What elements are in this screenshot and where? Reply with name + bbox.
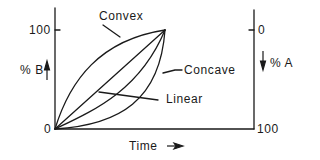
convex-leader <box>103 25 120 37</box>
linear-label: Linear <box>166 93 203 105</box>
convex-label: Convex <box>99 10 143 22</box>
concave-label: Concave <box>184 64 236 76</box>
right-axis-100-label: 100 <box>257 123 279 135</box>
left-axis-0-label: 0 <box>44 123 51 135</box>
concave-leader <box>163 70 182 73</box>
up-arrow-icon <box>45 61 50 70</box>
percent-a-label: % A <box>270 57 293 69</box>
right-axis-0-label: 0 <box>258 24 265 36</box>
linear-leader <box>99 92 158 100</box>
linear-curve <box>55 30 165 129</box>
time-label: Time <box>129 140 158 152</box>
percent-b-label: % B <box>20 64 44 76</box>
left-axis-100-label: 100 <box>29 24 51 36</box>
down-arrow-icon <box>261 61 266 70</box>
right-arrow-icon <box>174 143 183 149</box>
